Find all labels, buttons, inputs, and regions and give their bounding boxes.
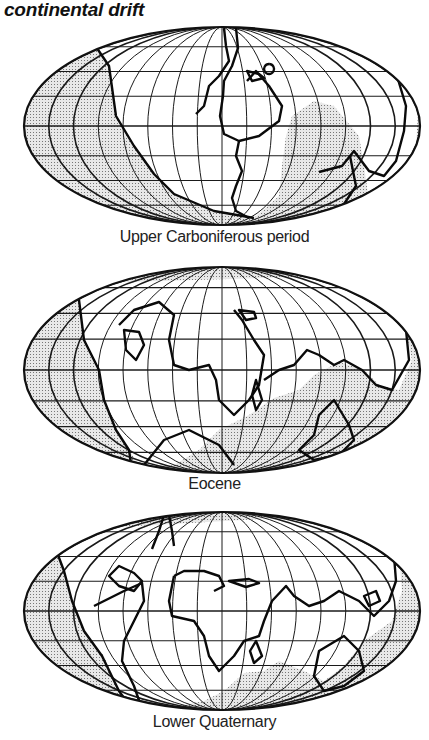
map-lower-quaternary bbox=[0, 0, 429, 740]
caption-lower-quaternary: Lower Quaternary bbox=[0, 713, 429, 731]
globe-projection bbox=[0, 0, 429, 740]
